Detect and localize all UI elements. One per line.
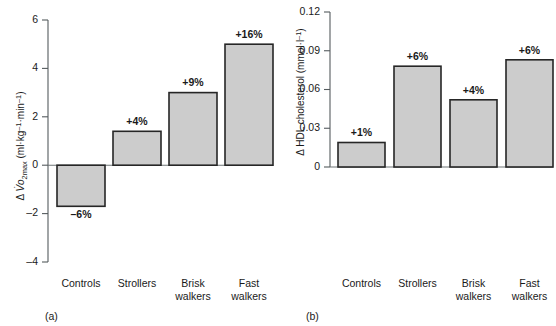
panel-a-ytick-label-neg2: –2 bbox=[26, 206, 38, 218]
panel-a-tag: (a) bbox=[45, 310, 58, 322]
panel-b-bar-label-strollers: +6% bbox=[407, 50, 429, 62]
panel-a-bar-label-controls: –6% bbox=[70, 208, 92, 220]
panel-a-ytick-label-4: 4 bbox=[32, 61, 38, 73]
panel-a-ylabel-sup1: –1 bbox=[14, 123, 23, 131]
panel-b-bar-label-fast-walkers: +6% bbox=[519, 44, 541, 56]
panel-a-category-fast-line2: walkers bbox=[230, 290, 267, 302]
panel-b-y-axis-title: Δ HDL cholesterol (mmol·l–1) bbox=[294, 28, 306, 155]
panel-a-ylabel-delta: Δ bbox=[15, 192, 26, 201]
figure-container: 6 4 2 0 –2 –4 –6% +4% +9% +16% Controls bbox=[0, 0, 556, 326]
panel-b-ytick-label-0: 0 bbox=[314, 160, 320, 172]
panel-b-bar-brisk-walkers bbox=[450, 100, 497, 167]
panel-b-category-brisk-line2: walkers bbox=[455, 290, 492, 302]
panel-b-bar-fast-walkers bbox=[506, 60, 553, 167]
panel-a-category-brisk-line1: Brisk bbox=[181, 277, 205, 289]
panel-a-ytick-label-6: 6 bbox=[32, 13, 38, 25]
panel-a-ylabel-sup2: –1 bbox=[14, 95, 23, 103]
panel-a-category-strollers: Strollers bbox=[118, 277, 157, 289]
panel-a-category-controls: Controls bbox=[61, 277, 100, 289]
panel-a-category-brisk-line2: walkers bbox=[174, 290, 211, 302]
panel-a-bar-brisk-walkers bbox=[169, 93, 217, 166]
panel-a-bar-label-fast-walkers: +16% bbox=[235, 28, 263, 40]
panel-a-bar-fast-walkers bbox=[225, 44, 273, 165]
panel-b-plot: 0.12 0.09 0.06 0.03 0 +1% +6% +4% +6% Co… bbox=[278, 0, 556, 326]
panel-a-ylabel-sub2max: 2max bbox=[20, 161, 29, 179]
panel-b-bar-label-controls: +1% bbox=[351, 126, 373, 138]
panel-b-category-fast-line1: Fast bbox=[519, 277, 540, 289]
panel-b-category-fast-line2: walkers bbox=[511, 290, 548, 302]
panel-a-plot: 6 4 2 0 –2 –4 –6% +4% +9% +16% Controls bbox=[0, 0, 278, 326]
panel-a-category-fast-line1: Fast bbox=[239, 277, 260, 289]
panel-b-category-controls: Controls bbox=[342, 277, 381, 289]
chart-panel-a: 6 4 2 0 –2 –4 –6% +4% +9% +16% Controls bbox=[0, 0, 278, 326]
panel-a-ytick-label-2: 2 bbox=[32, 110, 38, 122]
panel-a-bar-label-strollers: +4% bbox=[126, 115, 148, 127]
panel-a-bar-controls bbox=[57, 165, 105, 206]
panel-a-ylabel-units: (ml·kg bbox=[15, 131, 26, 162]
chart-panel-b: 0.12 0.09 0.06 0.03 0 +1% +6% +4% +6% Co… bbox=[278, 0, 556, 326]
panel-b-ylabel-text: Δ HDL cholesterol (mmol·l bbox=[295, 40, 306, 156]
panel-b-ytick-label-012: 0.12 bbox=[300, 5, 321, 17]
panel-a-ylabel-mid: ·min bbox=[15, 103, 26, 122]
panel-a-bar-strollers bbox=[113, 131, 161, 165]
panel-a-bar-label-brisk-walkers: +9% bbox=[182, 76, 204, 88]
panel-b-category-brisk-line1: Brisk bbox=[462, 277, 486, 289]
panel-a-ytick-label-0: 0 bbox=[32, 158, 38, 170]
panel-b-bar-strollers bbox=[394, 66, 441, 167]
panel-b-ylabel-close: ) bbox=[295, 28, 306, 31]
panel-b-tag: (b) bbox=[306, 310, 319, 322]
panel-b-bar-controls bbox=[338, 143, 385, 168]
panel-a-ytick-label-neg4: –4 bbox=[26, 255, 38, 267]
panel-a-ylabel-close: ) bbox=[15, 91, 26, 94]
panel-a-y-axis-title: Δ V̇o2max (ml·kg–1·min–1) bbox=[14, 91, 29, 200]
panel-b-bar-label-brisk-walkers: +4% bbox=[463, 84, 485, 96]
panel-b-category-strollers: Strollers bbox=[398, 277, 437, 289]
panel-b-ylabel-sup1: –1 bbox=[294, 32, 303, 40]
